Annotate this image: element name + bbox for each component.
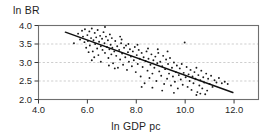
x-axis-tick-labels: 4.06.08.010.012.0 (32, 104, 243, 115)
svg-text:12.0: 12.0 (225, 104, 243, 115)
svg-text:3.0: 3.0 (19, 57, 32, 68)
svg-text:4.0: 4.0 (19, 20, 32, 31)
svg-text:3.5: 3.5 (19, 38, 32, 49)
svg-text:8.0: 8.0 (130, 104, 143, 115)
axis-ticks (35, 26, 235, 104)
x-axis-label: ln GDP pc (0, 120, 272, 132)
svg-text:4.0: 4.0 (32, 104, 45, 115)
svg-text:2.0: 2.0 (19, 94, 32, 105)
plot-canvas: 4.06.08.010.012.0 2.02.53.03.54.0 (0, 0, 272, 140)
data-points (73, 26, 229, 96)
svg-text:2.5: 2.5 (19, 75, 32, 86)
scatter-plot-figure: ln BR 4.06.08.010.012.0 2.02.53.03.54.0 … (0, 0, 272, 140)
y-axis-tick-labels: 2.02.53.03.54.0 (19, 20, 32, 105)
svg-text:10.0: 10.0 (176, 104, 194, 115)
svg-text:6.0: 6.0 (81, 104, 94, 115)
